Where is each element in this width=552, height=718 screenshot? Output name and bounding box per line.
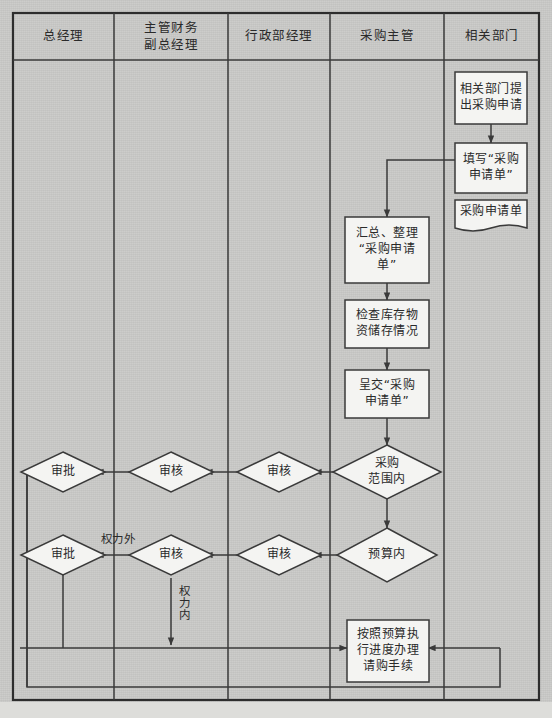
node-collect-shape[interactable] [345,217,429,283]
node-reviewadmin1-shape[interactable] [237,452,321,492]
node-approvegm1-shape[interactable] [21,452,105,492]
edge-label-in-authority: 权力内 [178,585,190,625]
node-approvegm2-shape[interactable] [21,535,105,575]
node-inscope-shape[interactable] [333,445,441,499]
edge-fillform-to-collect [387,160,455,217]
node-request-shape[interactable] [455,72,527,124]
node-submit-shape[interactable] [345,370,429,418]
node-fillform-shape[interactable] [455,143,527,193]
node-layer [21,72,527,682]
node-reviewfin2-shape[interactable] [129,535,213,575]
node-formdoc-shape[interactable] [455,200,527,231]
node-reviewadmin2-shape[interactable] [237,535,321,575]
flowchart-canvas [0,0,552,718]
node-reviewfin1-shape[interactable] [129,452,213,492]
node-checkstock-shape[interactable] [345,300,429,348]
flowchart-page: 总经理 主管财务 副总经理 行政部经理 采购主管 相关部门 相关部门提 出采购申… [0,0,552,718]
node-process-shape[interactable] [347,620,429,682]
node-inbudget-shape[interactable] [337,528,437,582]
